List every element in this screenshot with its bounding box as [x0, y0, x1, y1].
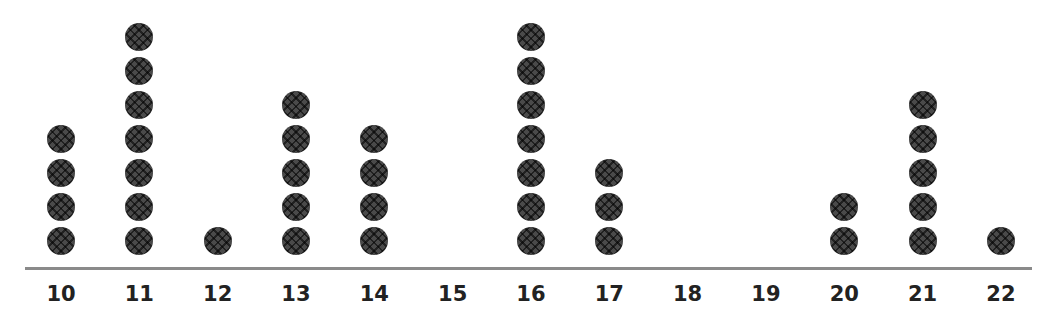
data-dot: [517, 227, 545, 255]
data-dot: [125, 57, 153, 85]
data-dot: [909, 227, 937, 255]
data-dot: [47, 159, 75, 187]
x-tick-label: 21: [893, 282, 953, 306]
x-tick-label: 16: [501, 282, 561, 306]
data-dot: [517, 57, 545, 85]
data-dot: [204, 227, 232, 255]
data-dot: [595, 193, 623, 221]
x-tick-label: 17: [579, 282, 639, 306]
x-tick-label: 15: [423, 282, 483, 306]
x-tick-label: 12: [188, 282, 248, 306]
data-dot: [282, 91, 310, 119]
data-dot: [125, 91, 153, 119]
data-dot: [360, 193, 388, 221]
data-dot: [125, 193, 153, 221]
x-tick-label: 10: [31, 282, 91, 306]
data-dot: [517, 91, 545, 119]
data-dot: [909, 125, 937, 153]
data-dot: [360, 159, 388, 187]
data-dot: [47, 125, 75, 153]
data-dot: [909, 91, 937, 119]
data-dot: [282, 193, 310, 221]
data-dot: [517, 125, 545, 153]
data-dot: [595, 227, 623, 255]
dot-plot: 10111213141516171819202122: [0, 0, 1061, 321]
data-dot: [47, 193, 75, 221]
x-tick-label: 13: [266, 282, 326, 306]
data-dot: [125, 159, 153, 187]
x-tick-label: 11: [109, 282, 169, 306]
x-tick-label: 20: [814, 282, 874, 306]
x-tick-label: 14: [344, 282, 404, 306]
x-tick-label: 22: [971, 282, 1031, 306]
data-dot: [125, 227, 153, 255]
data-dot: [125, 23, 153, 51]
data-dot: [909, 159, 937, 187]
data-dot: [517, 23, 545, 51]
data-dot: [517, 159, 545, 187]
data-dot: [517, 193, 545, 221]
data-dot: [360, 227, 388, 255]
x-tick-label: 19: [736, 282, 796, 306]
data-dot: [282, 159, 310, 187]
data-dot: [909, 193, 937, 221]
x-tick-label: 18: [658, 282, 718, 306]
data-dot: [282, 125, 310, 153]
data-dot: [830, 193, 858, 221]
data-dot: [125, 125, 153, 153]
data-dot: [987, 227, 1015, 255]
data-dot: [360, 125, 388, 153]
data-dot: [595, 159, 623, 187]
data-dot: [47, 227, 75, 255]
data-dot: [282, 227, 310, 255]
data-dot: [830, 227, 858, 255]
x-axis-line: [25, 267, 1032, 270]
